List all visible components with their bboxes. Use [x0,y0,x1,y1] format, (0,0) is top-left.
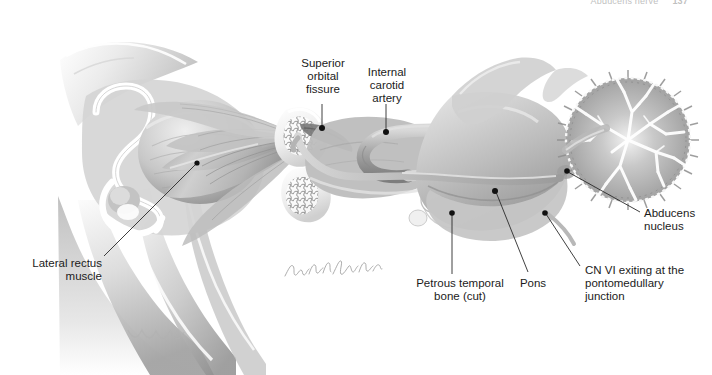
label-petrous-temporal-bone: Petrous temporal bone (cut) [408,277,512,303]
label-abducens-nucleus: Abducens nucleus [644,207,710,233]
label-superior-orbital-fissure: Superior orbital fissure [292,57,354,97]
label-lateral-rectus-muscle: Lateral rectus muscle [6,257,102,283]
illustration-page: Abducens nerve137 [0,0,712,375]
label-cn-vi-exiting: CN VI exiting at the pontomedullary junc… [585,264,709,304]
anatomical-illustration [0,0,712,375]
artist-signature [281,258,385,280]
label-internal-carotid-artery: Internal carotid artery [358,66,416,106]
structure-vertebral-artery-stump [548,214,574,244]
label-pons: Pons [513,277,553,290]
